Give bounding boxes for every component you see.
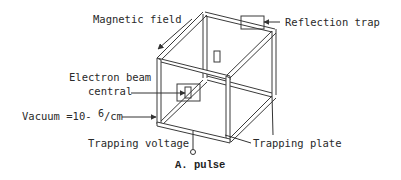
vacuum-suffix: /cm	[104, 110, 123, 122]
back-plate-window	[214, 51, 220, 62]
reflection-trap-label: Reflection trap	[285, 17, 380, 28]
depth-edges	[157, 12, 276, 142]
trapping-plate-label: Trapping plate	[253, 138, 342, 149]
diagram-canvas: Magnetic field Reflection trap Electron …	[0, 0, 401, 180]
electron-beam-label: Electron beam	[69, 72, 151, 83]
vacuum-exponent: 6	[98, 108, 104, 119]
vacuum-label: Vacuum =10- 6/cm	[22, 111, 123, 122]
electron-beam-label-line2: central	[88, 86, 132, 97]
trapping-voltage-terminal	[191, 150, 196, 155]
magnetic-field-label: Magnetic field	[93, 14, 182, 25]
vacuum-prefix: Vacuum =10-	[22, 110, 92, 122]
figure-caption: A. pulse	[175, 160, 225, 171]
trapping-voltage-label: Trapping voltage	[88, 138, 189, 149]
